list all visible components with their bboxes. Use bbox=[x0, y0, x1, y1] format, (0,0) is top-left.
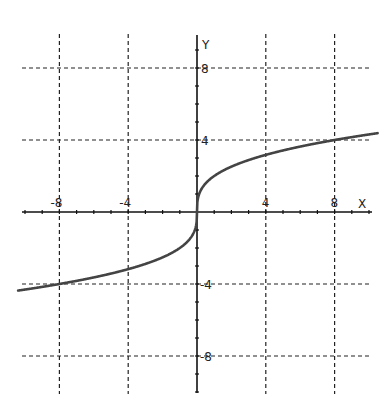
cube-root-plot: -8-44884-4-8 X Y bbox=[0, 0, 384, 401]
y-axis-label: Y bbox=[201, 38, 210, 52]
x-tick-label: 8 bbox=[331, 196, 339, 210]
y-tick-label: 8 bbox=[201, 62, 209, 76]
y-tick-label: -8 bbox=[200, 350, 212, 364]
x-tick-label: -4 bbox=[119, 196, 131, 210]
x-tick-label: -8 bbox=[50, 196, 62, 210]
y-tick-label: 4 bbox=[201, 134, 209, 148]
x-axis-label: X bbox=[358, 197, 366, 211]
y-tick-label: -4 bbox=[200, 278, 212, 292]
x-tick-label: 4 bbox=[262, 196, 270, 210]
